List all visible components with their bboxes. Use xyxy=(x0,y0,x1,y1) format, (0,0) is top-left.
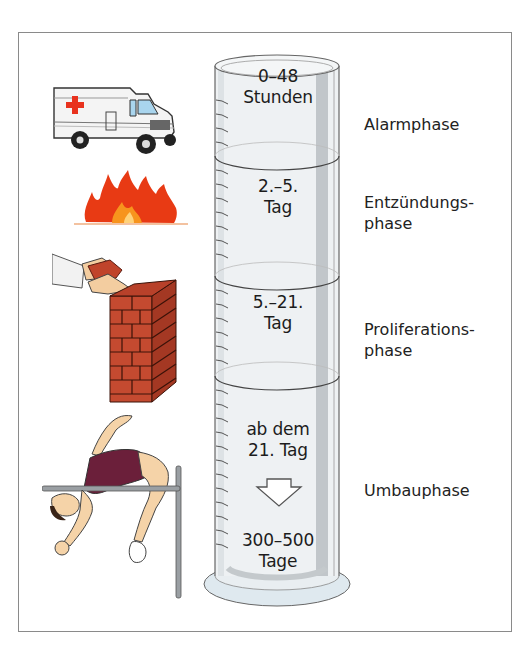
high-jumper-icon xyxy=(42,412,190,602)
brick-wall-icon xyxy=(52,244,184,406)
cylinder-section-0: 0–48 Stunden xyxy=(214,66,342,108)
phase-remodeling-line1: Umbauphase xyxy=(364,480,470,501)
cylinder-section-2-line2: Tag xyxy=(214,313,342,334)
cylinder-section-1-line2: Tag xyxy=(214,197,342,218)
phase-proliferation-line2: phase xyxy=(364,340,475,361)
phase-inflammation: Entzündungs- phase xyxy=(364,192,474,234)
cylinder-section-1-line1: 2.–5. xyxy=(214,176,342,197)
cylinder-section-4: 300–500 Tage xyxy=(214,530,342,572)
phase-proliferation-line1: Proliferations- xyxy=(364,319,475,340)
cylinder-section-1: 2.–5. Tag xyxy=(214,176,342,218)
phase-inflammation-line2: phase xyxy=(364,213,474,234)
phase-alarm-line1: Alarmphase xyxy=(364,114,459,135)
cylinder-section-2-line1: 5.–21. xyxy=(214,292,342,313)
cylinder-section-4-line2: Tage xyxy=(214,551,342,572)
phase-proliferation: Proliferations- phase xyxy=(364,319,475,361)
cylinder-section-0-line2: Stunden xyxy=(214,87,342,108)
cylinder-section-4-line1: 300–500 xyxy=(214,530,342,551)
ambulance-icon xyxy=(50,82,186,162)
phase-alarm: Alarmphase xyxy=(364,114,459,135)
cylinder-section-3-line2: 21. Tag xyxy=(214,440,342,461)
cylinder-section-3-line1: ab dem xyxy=(214,419,342,440)
phase-remodeling: Umbauphase xyxy=(364,480,470,501)
phase-inflammation-line1: Entzündungs- xyxy=(364,192,474,213)
cylinder-section-2: 5.–21. Tag xyxy=(214,292,342,334)
fire-icon xyxy=(72,168,190,228)
cylinder-section-0-line1: 0–48 xyxy=(214,66,342,87)
down-arrow-icon xyxy=(255,478,303,508)
cylinder-section-3: ab dem 21. Tag xyxy=(214,419,342,461)
